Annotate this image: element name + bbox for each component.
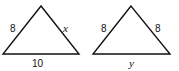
triangle-right-right-side-label: 8 <box>155 23 161 34</box>
triangle-left: 8 x 10 <box>3 6 79 69</box>
triangle-right: 8 8 y <box>93 6 170 69</box>
triangles-diagram: 8 x 10 8 8 y <box>0 0 179 71</box>
triangle-right-base-label: y <box>128 57 134 69</box>
triangle-left-right-side-label: x <box>62 22 68 34</box>
triangle-right-left-side-label: 8 <box>101 23 107 34</box>
triangle-left-left-side-label: 8 <box>10 23 16 34</box>
triangle-left-base-label: 10 <box>32 58 44 69</box>
